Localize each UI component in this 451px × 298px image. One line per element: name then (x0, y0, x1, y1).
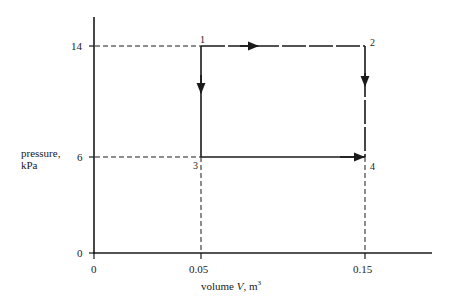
x-tick-label-0.15: 0.15 (353, 263, 372, 275)
y-axis-label-line2: kPa (21, 159, 60, 171)
x-tick-label-0.05: 0.05 (189, 263, 208, 275)
y-axis-label-line1: pressure, (21, 147, 60, 159)
point-label-2: 2 (370, 37, 375, 49)
pv-diagram (0, 0, 451, 298)
y-tick-label-6: 6 (77, 151, 83, 163)
x-axis-label-exp: 3 (258, 279, 262, 287)
y-tick-label-14: 14 (71, 40, 82, 52)
x-axis-label-prefix: volume (201, 280, 237, 292)
x-axis-label-unit: , m (243, 280, 257, 292)
point-label-1: 1 (200, 34, 205, 46)
point-label-3: 3 (193, 160, 198, 172)
y-axis-label: pressure, kPa (21, 147, 60, 171)
x-tick-label-0: 0 (91, 263, 97, 275)
point-label-4: 4 (370, 161, 375, 173)
x-axis-label: volume V, m3 (201, 277, 261, 292)
y-tick-label-0: 0 (77, 247, 83, 259)
